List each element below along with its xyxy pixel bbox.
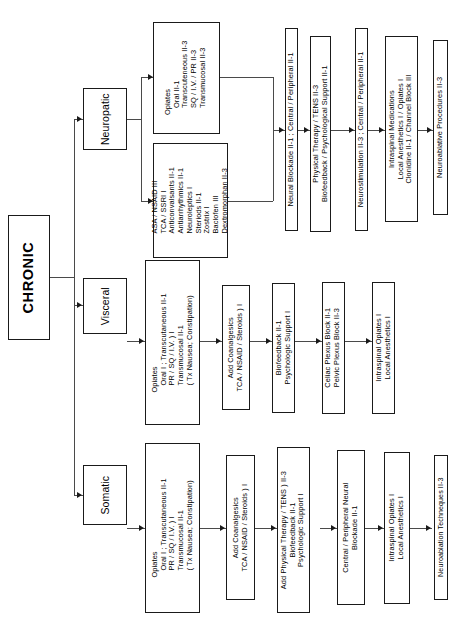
node-visceral-biofeedback: Biofeedback II-1Psychologic Support I	[272, 283, 295, 413]
node-category-somatic: Somatic	[83, 465, 127, 525]
node-category-neuropatic: Neuropatic	[83, 88, 127, 150]
node-somatic-physical-therapy-text: Add Physical Therapy / TENS ) II-3Biofee…	[280, 471, 306, 589]
node-line-2: Clonidine II-1 / Channel Block III	[406, 75, 415, 184]
node-line-2: Psychologic Support I	[298, 471, 307, 589]
arrow-somatic-coanalgesics	[220, 525, 225, 531]
node-line-1: Psychologic Support I	[284, 311, 293, 385]
node-neuropatic-opiates-text: OpiatesOral II-1Transcuteneous II-3SQ / …	[165, 41, 209, 115]
arrow-visceral-plexus	[316, 338, 321, 344]
connector-adjuvants-merge	[228, 201, 273, 202]
node-category-somatic-label: Somatic	[99, 476, 111, 515]
node-visceral-opiates: OpiatesOral I ; Transcutaneous II-1PR / …	[145, 260, 200, 425]
node-line-3: ( Tx Nausea; Constipation)	[186, 293, 195, 392]
node-somatic-neural-blockade-text: Central / Peripheral NeuralBlockade II-1	[342, 482, 359, 572]
node-neuropatic-intraspinal: Intraspinal MedicationsLocal Anesthetics…	[385, 36, 418, 222]
node-somatic-opiates-text: OpiatesOral I ; Transcutaneous II-1PR / …	[151, 478, 195, 577]
node-line-1: Biofeedback / Psychological Support II-1	[321, 66, 330, 203]
node-neuropatic-neurostimulation-text: Neurostimulation II-3 ; Central / Periph…	[357, 52, 366, 208]
node-somatic-neuroablation-text: Neuroablation Techneques II-3	[437, 478, 445, 577]
arrow-nb-to-pt	[304, 127, 309, 133]
node-line-1: Pelvic Plexus Block II-3	[334, 308, 343, 388]
node-neuropatic-adjuvants-text: ASA / NSAID IIITCA / SSRI IAnticonvalsan…	[151, 167, 230, 234]
node-line-0: Intraspinal Opiates I	[375, 314, 384, 382]
node-category-neuropatic-label: Neuropatic	[99, 93, 111, 145]
node-line-0: Neuroablative Procedures II-3	[436, 77, 445, 178]
connector-neuropatic-out	[127, 119, 141, 120]
node-somatic-physical-therapy: Add Physical Therapy / TENS ) II-3Biofee…	[277, 447, 310, 613]
node-line-8: Dextromorphan II-3	[221, 167, 230, 234]
arrow-to-neural-blockade	[279, 127, 284, 133]
node-somatic-intraspinal: Intraspinal Opiates ILocal Anesthetics I	[384, 452, 410, 604]
node-somatic-intraspinal-text: Intraspinal Opiates ILocal Anesthetics I	[388, 494, 405, 562]
node-visceral-biofeedback-text: Biofeedback II-1Psychologic Support I	[275, 311, 292, 385]
node-neuropatic-physical-therapy: Physical Therapy / TENS II-3Biofeedback …	[310, 36, 331, 232]
connector-neuropatic-split	[141, 77, 142, 201]
node-chronic-root: CHRONIC	[8, 215, 50, 340]
node-category-visceral: Visceral	[83, 278, 127, 334]
node-somatic-coanalgesics: Add CoanalgesicsTCA / NSAID / Steroids )…	[226, 455, 255, 600]
node-line-1: TCA / NSAID / Steroids ) I	[241, 484, 250, 572]
node-neuropatic-neural-blockade: Neural Blockade II-1 ; Central / Periphe…	[285, 28, 298, 231]
node-line-3: ( Tx Nausea; Constipation)	[186, 478, 195, 577]
flowchart-canvas: CHRONIC Neuropatic Visceral Somatic Opia…	[0, 0, 456, 640]
node-neuropatic-neural-blockade-text: Neural Blockade II-1 ; Central / Periphe…	[287, 52, 296, 206]
arrow-visceral-intraspinal	[366, 338, 371, 344]
node-neuropatic-physical-therapy-text: Physical Therapy / TENS II-3Biofeedback …	[312, 66, 329, 203]
arrow-pt-to-neurostim	[349, 127, 354, 133]
node-neuropatic-intraspinal-text: Intraspinal MedicationsLocal Anesthetics…	[388, 75, 414, 184]
node-visceral-opiates-text: OpiatesOral I ; Transcutaneous II-1PR / …	[151, 293, 195, 392]
arrow-somatic-pt	[271, 525, 276, 531]
node-neuropatic-adjuvants: ASA / NSAID IIITCA / SSRI IAnticonvalsan…	[153, 143, 228, 258]
node-line-0: Neurostimulation II-3 ; Central / Periph…	[357, 52, 366, 208]
node-somatic-coanalgesics-text: Add CoanalgesicsTCA / NSAID / Steroids )…	[232, 484, 249, 572]
arrow-visceral-opiates	[139, 338, 144, 344]
connector-root-out	[50, 277, 74, 278]
arrow-visceral-biofeedback	[266, 338, 271, 344]
node-chronic-root-label: CHRONIC	[20, 242, 37, 314]
node-line-1: Blockade II-1	[351, 482, 360, 572]
arrow-somatic-neuroablation	[426, 525, 431, 531]
node-line-1: TCA / NSAID / Steroids ) I	[236, 304, 245, 392]
node-visceral-intraspinal: Intraspinal Opiates ILocal Anesthetics I	[372, 282, 395, 414]
node-somatic-neural-blockade: Central / Peripheral NeuralBlockade II-1	[337, 450, 365, 605]
node-visceral-plexus-block-text: Celiac Plexus Block II-1Pelvic Plexus Bl…	[325, 308, 342, 388]
node-neuropatic-neuroablative: Neuroablative Procedures II-3	[433, 40, 448, 215]
node-line-1: Local Anesthetics I	[384, 314, 393, 382]
connector-trunk-vertical	[74, 119, 75, 495]
arrow-somatic-blockade	[331, 525, 336, 531]
arrow-to-neuropatic	[77, 116, 82, 122]
node-line-0: Neuroablation Techneques II-3	[437, 478, 445, 577]
node-somatic-neuroablation: Neuroablation Techneques II-3	[434, 455, 448, 600]
node-visceral-intraspinal-text: Intraspinal Opiates ILocal Anesthetics I	[375, 314, 392, 382]
connector-opiates-merge	[220, 77, 273, 78]
arrow-to-neuroablative	[427, 127, 432, 133]
arrow-somatic-opiates	[139, 525, 144, 531]
node-category-visceral-label: Visceral	[99, 287, 111, 325]
node-line-1: Local Anesthetics I	[397, 494, 406, 562]
arrow-somatic-intraspinal	[378, 525, 383, 531]
node-line-0: Neural Blockade II-1 ; Central / Periphe…	[287, 52, 296, 206]
node-neuropatic-neurostimulation: Neurostimulation II-3 ; Central / Periph…	[355, 28, 368, 231]
arrow-to-somatic	[77, 492, 82, 498]
node-visceral-coanalgesics-text: Add CoanalgesicsTCA / NSAID / Steroids )…	[227, 304, 244, 392]
arrow-visceral-coanalgesics	[216, 338, 221, 344]
arrow-neurostim-to-intraspinal	[379, 127, 384, 133]
node-neuropatic-opiates: OpiatesOral II-1Transcuteneous II-3SQ / …	[153, 22, 220, 134]
connector-neuropatic-merge-vertical	[273, 77, 274, 201]
arrow-to-visceral	[77, 302, 82, 308]
node-line-3: Transmucosal II-3	[200, 41, 209, 115]
node-visceral-coanalgesics: Add CoanalgesicsTCA / NSAID / Steroids )…	[222, 285, 250, 410]
node-somatic-opiates: OpiatesOral I ; Transcutaneous II-1PR / …	[145, 443, 200, 613]
node-neuropatic-neuroablative-text: Neuroablative Procedures II-3	[436, 77, 445, 178]
node-visceral-plexus-block: Celiac Plexus Block II-1Pelvic Plexus Bl…	[322, 282, 345, 414]
